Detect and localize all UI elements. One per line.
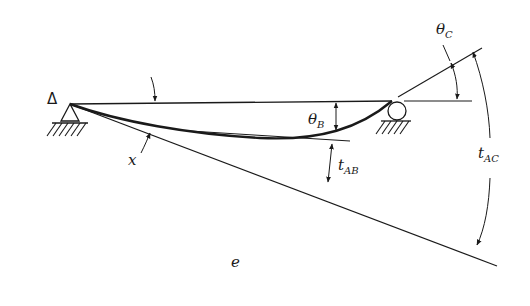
t-ab-label: tAB xyxy=(338,158,359,176)
theta-b-label: θB xyxy=(308,112,324,130)
t-ac-dimension-lower xyxy=(477,178,490,245)
x-leader-arrow xyxy=(141,133,150,153)
theta-c-label: θC xyxy=(436,22,453,40)
elastic-curve xyxy=(70,101,392,138)
delta-label: Δ xyxy=(47,92,57,107)
tangent-at-c-line xyxy=(398,48,482,97)
chord-line xyxy=(70,101,392,104)
x-label: x xyxy=(128,153,136,168)
diagram-drawing xyxy=(0,0,530,306)
t-ac-label: tAC xyxy=(478,146,499,164)
beam-deflection-diagram: Δ x θB θC tAB tAC e xyxy=(0,0,530,306)
theta-c-dimension xyxy=(451,63,457,99)
chord-leader-arrow xyxy=(151,77,155,101)
t-ab-dimension xyxy=(328,144,332,182)
tangent-at-a-line xyxy=(70,104,497,266)
t-ac-dimension-upper xyxy=(473,52,490,138)
figure-caption: e xyxy=(231,255,240,270)
roller-support-icon xyxy=(376,102,411,134)
